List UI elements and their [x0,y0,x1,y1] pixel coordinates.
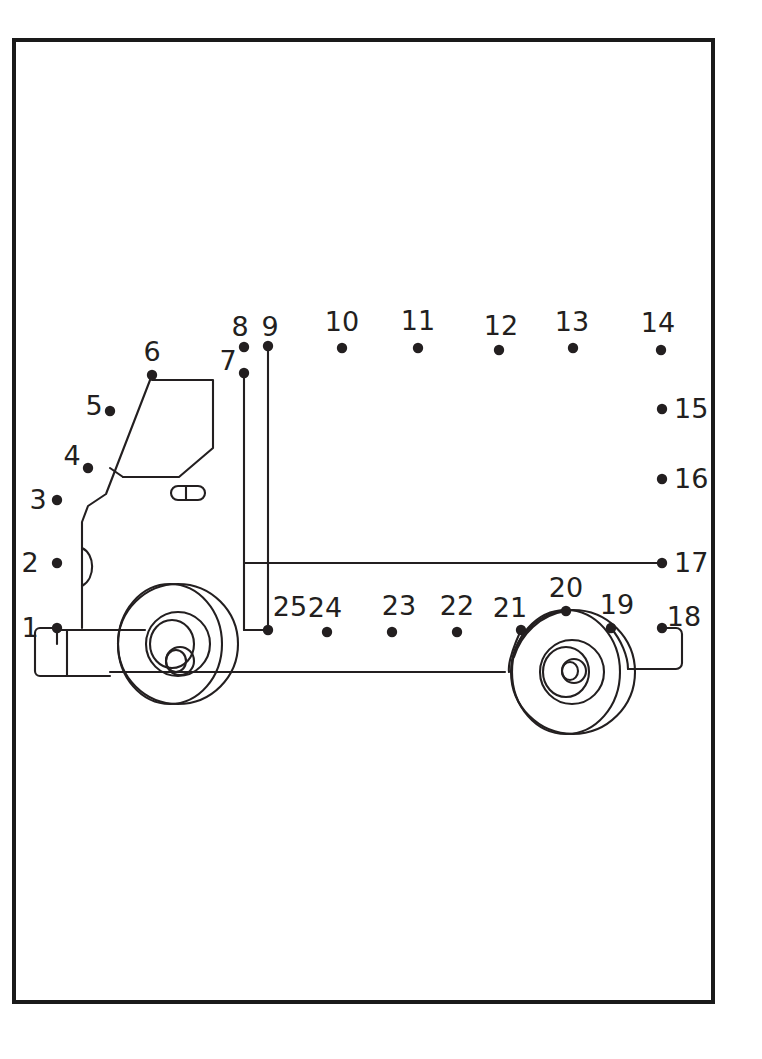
dot-marker-5[interactable] [105,406,115,416]
dot-number-labels: 1234567891011121314151617181920212223242… [21,305,708,643]
dot-marker-7[interactable] [239,368,249,378]
cab-mirror-slot [171,486,205,500]
dot-marker-21[interactable] [516,625,526,635]
dot-label-24: 24 [308,592,342,623]
dot-marker-13[interactable] [568,343,578,353]
dot-label-19: 19 [600,589,634,620]
dot-marker-25[interactable] [263,625,273,635]
dot-label-9: 9 [261,311,278,342]
dot-label-23: 23 [382,590,416,621]
cab-window-outline [123,380,213,477]
dot-marker-24[interactable] [322,627,332,637]
dot-label-17: 17 [674,547,708,578]
dot-label-20: 20 [549,572,583,603]
dot-marker-12[interactable] [494,345,504,355]
dot-label-21: 21 [493,592,527,623]
rear-wheel-hub-mid [543,647,589,697]
bumper-outer [35,628,110,676]
dot-label-25: 25 [273,591,307,622]
dot-label-5: 5 [85,390,102,421]
dot-label-14: 14 [641,307,675,338]
dot-marker-15[interactable] [657,404,667,414]
dot-marker-14[interactable] [656,345,666,355]
dot-marker-20[interactable] [561,606,571,616]
dot-label-16: 16 [674,463,708,494]
cab-door-handle-arc [82,548,92,586]
dot-label-10: 10 [325,306,359,337]
dot-label-22: 22 [440,590,474,621]
dot-marker-3[interactable] [52,495,62,505]
dot-marker-1[interactable] [52,623,62,633]
dot-label-6: 6 [143,336,160,367]
front-wheel-outer-b [118,584,222,704]
rear-wheel-hub-inner-b [562,662,578,680]
dot-marker-16[interactable] [657,474,667,484]
puzzle-page: 1234567891011121314151617181920212223242… [0,0,762,1059]
dot-marker-9[interactable] [263,341,273,351]
rear-wheel-hub-outer [540,640,604,704]
page-border [14,40,713,1002]
dot-label-4: 4 [63,440,80,471]
dot-label-13: 13 [555,306,589,337]
dot-label-2: 2 [21,547,38,578]
dot-marker-17[interactable] [657,558,667,568]
dot-label-1: 1 [21,612,38,643]
dot-label-15: 15 [674,393,708,424]
truck-artwork [35,346,682,734]
dot-marker-11[interactable] [413,343,423,353]
dot-marker-19[interactable] [606,623,616,633]
front-wheel-outer-a [118,584,238,704]
rear-bumper-step [628,628,682,669]
front-wheel-hub-mid [150,620,194,668]
dot-marker-10[interactable] [337,343,347,353]
dot-marker-23[interactable] [387,627,397,637]
dot-marker-18[interactable] [657,623,667,633]
dot-marker-8[interactable] [239,342,249,352]
dot-label-7: 7 [219,345,236,376]
connect-the-dots-canvas: 1234567891011121314151617181920212223242… [0,0,762,1059]
dot-marker-4[interactable] [83,463,93,473]
dot-label-8: 8 [231,311,248,342]
dot-marker-2[interactable] [52,558,62,568]
dot-label-12: 12 [484,310,518,341]
dot-marker-22[interactable] [452,627,462,637]
dot-label-11: 11 [401,305,435,336]
dot-label-18: 18 [667,601,701,632]
dot-label-3: 3 [29,484,46,515]
dot-marker-6[interactable] [147,370,157,380]
